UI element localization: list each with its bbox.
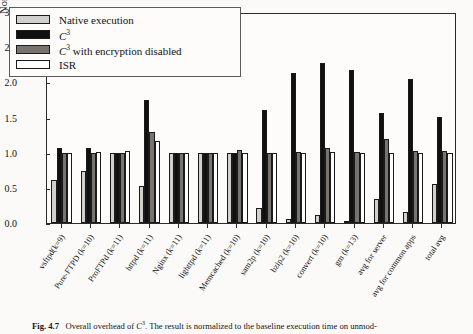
legend-label: C3 with encryption disabled	[59, 43, 182, 57]
y-tick-label: 2.0	[0, 79, 17, 87]
y-tick-label: 0.0	[0, 220, 17, 228]
y-tick-mark	[46, 224, 50, 225]
bar-3	[418, 153, 423, 223]
x-tick-mark	[90, 224, 91, 228]
legend-item: C3	[16, 27, 235, 42]
legend-item: C3 with encryption disabled	[16, 42, 235, 57]
bar-group	[398, 14, 427, 223]
x-tick-mark	[441, 224, 442, 228]
x-tick-mark	[412, 224, 413, 228]
bar-3	[447, 153, 452, 223]
y-tick-label: 1.0	[0, 150, 17, 158]
x-tick-mark	[354, 224, 355, 228]
y-tick-mark	[46, 189, 50, 190]
y-tick-label: 0.5	[0, 185, 17, 193]
y-tick-mark	[46, 83, 50, 84]
bar-3	[301, 153, 306, 223]
legend-swatch	[16, 15, 50, 24]
x-tick-mark	[149, 224, 150, 228]
legend-item: ISR	[16, 57, 235, 72]
legend-swatch	[16, 60, 50, 69]
x-tick-mark	[207, 224, 208, 228]
bar-group	[340, 14, 369, 223]
y-tick-mark	[46, 154, 50, 155]
y-tick-mark	[46, 119, 50, 120]
x-tick-mark	[61, 224, 62, 228]
legend-swatch	[16, 45, 50, 54]
bar-group	[428, 14, 457, 223]
legend-item: Native execution	[16, 12, 235, 27]
bar-3	[213, 153, 218, 223]
bar-group	[311, 14, 340, 223]
x-tick-mark	[324, 224, 325, 228]
bar-3	[184, 153, 189, 223]
bar-3	[389, 153, 394, 223]
legend-swatch	[16, 30, 50, 39]
legend-label: Native execution	[59, 14, 134, 26]
y-tick-label: 1.5	[0, 115, 17, 123]
legend-label: ISR	[59, 59, 76, 71]
figure-caption: Fig. 4.7 Overall overhead of C3. The res…	[32, 318, 444, 332]
bar-3	[155, 141, 160, 223]
bar-group	[252, 14, 281, 223]
bar-group	[369, 14, 398, 223]
bar-group	[281, 14, 310, 223]
bar-3	[360, 153, 365, 223]
x-tick-mark	[236, 224, 237, 228]
caption-text: Overall overhead of C3. The result is no…	[61, 321, 377, 331]
bar-3	[330, 152, 335, 223]
figure-overall-overhead: Normalized Execution Time 0.00.51.01.52.…	[0, 0, 473, 334]
x-tick-mark	[295, 224, 296, 228]
bar-3	[96, 152, 101, 223]
bar-3	[242, 153, 247, 223]
chart-legend: Native executionC3C3 with encryption dis…	[9, 7, 241, 77]
legend-label: C3	[59, 28, 70, 42]
x-tick-mark	[119, 224, 120, 228]
x-tick-mark	[266, 224, 267, 228]
x-tick-mark	[178, 224, 179, 228]
bar-3	[125, 151, 130, 223]
bar-3	[272, 153, 277, 223]
x-tick-mark	[383, 224, 384, 228]
caption-label: Fig. 4.7	[32, 321, 59, 331]
bar-3	[67, 153, 72, 223]
